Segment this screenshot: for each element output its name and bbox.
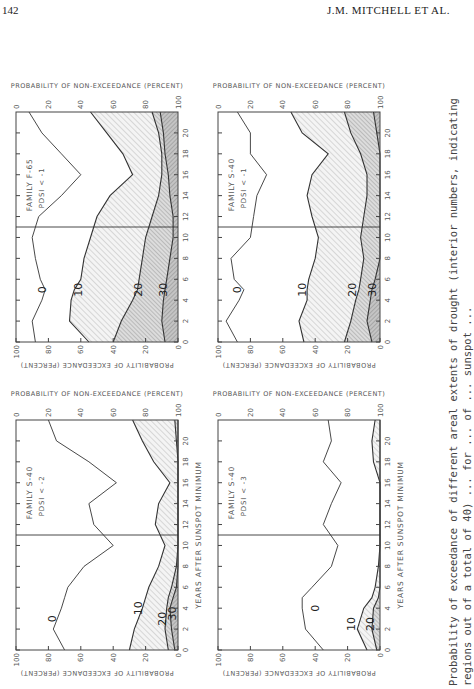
svg-text:0: 0 <box>182 648 190 652</box>
caption-line-2: regions out of a total of 40) ... for ..… <box>460 0 474 686</box>
svg-text:40: 40 <box>77 100 85 109</box>
svg-text:PDSI < -2: PDSI < -2 <box>38 476 46 517</box>
svg-text:20: 20 <box>182 436 190 445</box>
page-number: 142 <box>2 4 19 16</box>
svg-text:18: 18 <box>182 149 190 158</box>
svg-text:6: 6 <box>384 277 392 282</box>
svg-text:0: 0 <box>215 413 223 417</box>
svg-text:12: 12 <box>384 212 392 221</box>
svg-text:0: 0 <box>13 105 21 109</box>
svg-text:6: 6 <box>182 277 190 282</box>
svg-text:2: 2 <box>384 319 392 323</box>
svg-text:18: 18 <box>384 149 392 158</box>
svg-text:20: 20 <box>344 345 352 354</box>
svg-text:100: 100 <box>175 96 183 109</box>
svg-text:PROBABILITY OF NON-EXCEEDANCE: PROBABILITY OF NON-EXCEEDANCE (PERCENT) <box>213 390 386 398</box>
svg-text:16: 16 <box>182 478 190 487</box>
svg-text:0: 0 <box>377 345 385 349</box>
svg-text:PDSI < -1: PDSI < -1 <box>240 168 248 209</box>
svg-text:100: 100 <box>13 653 21 666</box>
svg-text:100: 100 <box>377 404 385 417</box>
svg-text:10: 10 <box>182 541 190 550</box>
svg-text:8: 8 <box>384 256 392 260</box>
chart-family-s40-pdsi-3: 0102002468101214161820010020804060604080… <box>210 390 406 680</box>
svg-text:60: 60 <box>279 653 287 662</box>
svg-text:6: 6 <box>384 585 392 590</box>
svg-text:20: 20 <box>45 408 53 417</box>
svg-text:0: 0 <box>309 605 322 612</box>
svg-text:10: 10 <box>345 617 358 631</box>
svg-text:14: 14 <box>384 191 392 200</box>
svg-text:30: 30 <box>366 283 379 297</box>
svg-text:20: 20 <box>142 345 150 354</box>
svg-text:100: 100 <box>215 345 223 358</box>
svg-text:40: 40 <box>77 408 85 417</box>
svg-text:PROBABILITY OF NON-EXCEEDANCE: PROBABILITY OF NON-EXCEEDANCE (PERCENT) <box>213 82 386 90</box>
svg-text:2: 2 <box>182 627 190 631</box>
svg-text:FAMILY S-40: FAMILY S-40 <box>227 466 236 519</box>
svg-text:18: 18 <box>182 457 190 466</box>
svg-text:10: 10 <box>72 283 85 297</box>
svg-text:PDSI < -3: PDSI < -3 <box>240 476 248 517</box>
svg-text:PROBABILITY OF EXCEEDANCE (PER: PROBABILITY OF EXCEEDANCE (PERCENT) <box>222 361 375 369</box>
svg-text:20: 20 <box>142 653 150 662</box>
svg-text:40: 40 <box>279 408 287 417</box>
svg-text:PROBABILITY OF NON-EXCEEDANCE: PROBABILITY OF NON-EXCEEDANCE (PERCENT) <box>11 82 184 90</box>
svg-text:0: 0 <box>175 345 183 349</box>
svg-text:12: 12 <box>384 520 392 529</box>
svg-text:20: 20 <box>364 617 377 631</box>
svg-text:80: 80 <box>142 408 150 417</box>
svg-text:PROBABILITY OF EXCEEDANCE (PER: PROBABILITY OF EXCEEDANCE (PERCENT) <box>20 669 173 677</box>
svg-text:60: 60 <box>312 100 320 109</box>
svg-text:0: 0 <box>215 105 223 109</box>
svg-text:8: 8 <box>384 564 392 568</box>
svg-text:16: 16 <box>384 478 392 487</box>
svg-text:6: 6 <box>182 585 190 590</box>
svg-text:0: 0 <box>46 615 59 622</box>
svg-text:60: 60 <box>77 653 85 662</box>
chart-family-s40-pdsi-2: 0102030024681012141618200100208040606040… <box>8 390 204 680</box>
svg-text:80: 80 <box>45 653 53 662</box>
svg-text:20: 20 <box>45 100 53 109</box>
svg-text:20: 20 <box>132 283 145 297</box>
svg-text:12: 12 <box>182 212 190 221</box>
svg-text:100: 100 <box>175 404 183 417</box>
svg-text:60: 60 <box>312 408 320 417</box>
svg-text:40: 40 <box>110 653 118 662</box>
svg-text:0: 0 <box>13 413 21 417</box>
svg-text:60: 60 <box>110 408 118 417</box>
svg-text:PDSI < -1: PDSI < -1 <box>38 168 46 209</box>
svg-text:10: 10 <box>384 541 392 550</box>
svg-text:100: 100 <box>377 96 385 109</box>
svg-text:100: 100 <box>13 345 21 358</box>
svg-text:0: 0 <box>175 653 183 657</box>
svg-text:YEARS AFTER SUNSPOT MINIMUM: YEARS AFTER SUNSPOT MINIMUM <box>194 461 203 610</box>
svg-text:60: 60 <box>110 100 118 109</box>
svg-text:0: 0 <box>377 653 385 657</box>
svg-text:YEARS AFTER SUNSPOT MINIMUM: YEARS AFTER SUNSPOT MINIMUM <box>396 461 405 610</box>
svg-text:40: 40 <box>110 345 118 354</box>
svg-text:FAMILY F-65: FAMILY F-65 <box>25 158 34 211</box>
svg-text:4: 4 <box>384 605 392 610</box>
svg-text:20: 20 <box>346 283 359 297</box>
svg-text:40: 40 <box>279 100 287 109</box>
svg-text:16: 16 <box>182 170 190 179</box>
svg-text:20: 20 <box>247 408 255 417</box>
svg-text:100: 100 <box>215 653 223 666</box>
chart-family-s40-pdsi-1: 0102030024681012141618200100208040606040… <box>210 82 406 372</box>
svg-text:18: 18 <box>384 457 392 466</box>
svg-text:2: 2 <box>182 319 190 323</box>
svg-text:40: 40 <box>312 345 320 354</box>
svg-text:12: 12 <box>182 520 190 529</box>
svg-text:0: 0 <box>231 286 244 293</box>
svg-text:8: 8 <box>182 564 190 568</box>
chart-family-f65-pdsi-1: 0102030024681012141618200100208040606040… <box>8 82 204 372</box>
svg-text:20: 20 <box>384 128 392 137</box>
svg-text:FAMILY S-40: FAMILY S-40 <box>25 466 34 519</box>
svg-text:2: 2 <box>384 627 392 631</box>
svg-text:20: 20 <box>384 436 392 445</box>
svg-text:60: 60 <box>77 345 85 354</box>
svg-text:4: 4 <box>182 605 190 610</box>
svg-text:PROBABILITY OF EXCEEDANCE (PER: PROBABILITY OF EXCEEDANCE (PERCENT) <box>222 669 375 677</box>
svg-text:0: 0 <box>384 340 392 344</box>
